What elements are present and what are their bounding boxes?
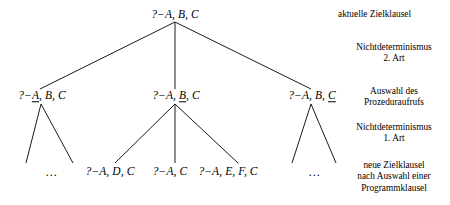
legend-row3-line1: Auswahl des xyxy=(338,86,450,97)
edge-left-to-a xyxy=(26,104,41,163)
legend-row4-line2: 1. Art xyxy=(338,133,450,144)
legend-auswahl-prozeduraufrufs: Auswahl des Prozeduraufrufs xyxy=(338,86,450,109)
edge-right-to-a xyxy=(292,104,311,163)
legend-row5-line1: neue Zielklausel xyxy=(338,160,450,171)
node-level2-right-prefix: ?− xyxy=(288,89,302,101)
edge-root-to-right xyxy=(175,22,311,89)
node-root: ?−A, B, C xyxy=(151,9,199,21)
leaf-node-1: ?−A, D, C xyxy=(86,166,135,178)
edge-mid-to-leaf1 xyxy=(115,104,175,163)
node-level2-left-after: , B, C xyxy=(39,89,66,101)
node-level2-mid: ?−A, B, C xyxy=(152,90,200,102)
node-level2-left-selected: A xyxy=(32,89,39,101)
node-level2-mid-before: A, xyxy=(166,89,179,101)
legend-nichtdeterminismus-2-art: Nichtdeterminismus 2. Art xyxy=(338,42,450,65)
node-root-before: A, B, C xyxy=(165,8,199,20)
edge-mid-to-leaf3 xyxy=(175,104,238,163)
edge-left-to-b xyxy=(41,104,73,163)
legend-row2-line2: 2. Art xyxy=(338,53,450,64)
node-root-prefix: ?− xyxy=(151,8,165,20)
node-level2-left: ?−A, B, C xyxy=(18,90,66,102)
node-level2-right-before: A, B, xyxy=(302,89,328,101)
legend-nichtdeterminismus-1-art: Nichtdeterminismus 1. Art xyxy=(338,122,450,145)
legend-row3-line2: Prozeduraufrufs xyxy=(338,97,450,108)
edge-root-to-left xyxy=(40,22,175,89)
legend-row5-line2: nach Auswahl einer xyxy=(338,171,450,182)
leaf-node-2: ?−A, C xyxy=(153,166,188,178)
legend-aktuelle-zielklausel: aktuelle Zielklausel xyxy=(338,9,450,20)
node-level2-mid-prefix: ?− xyxy=(152,89,166,101)
derivation-tree-diagram: ?−A, B, C ?−A, B, C ?−A, B, C ?−A, B, C … xyxy=(0,0,450,205)
node-level2-right-selected: C xyxy=(328,89,336,101)
legend-row4-line1: Nichtdeterminismus xyxy=(338,122,450,133)
leaf-right-ellipsis: … xyxy=(308,166,321,178)
node-level2-mid-selected: B xyxy=(179,89,186,101)
legend-row2-line1: Nichtdeterminismus xyxy=(338,42,450,53)
leaf-left-ellipsis: … xyxy=(45,166,58,178)
edge-right-to-b xyxy=(311,104,336,163)
legend-row5-line3: Programmklausel xyxy=(338,183,450,194)
legend-row1-line1: aktuelle Zielklausel xyxy=(338,9,450,20)
node-level2-left-prefix: ?− xyxy=(18,89,32,101)
legend-neue-zielklausel: neue Zielklausel nach Auswahl einer Prog… xyxy=(338,160,450,194)
node-level2-mid-after: , C xyxy=(186,89,200,101)
leaf-node-3: ?−A, E, F, C xyxy=(198,166,257,178)
node-level2-right: ?−A, B, C xyxy=(288,90,336,102)
